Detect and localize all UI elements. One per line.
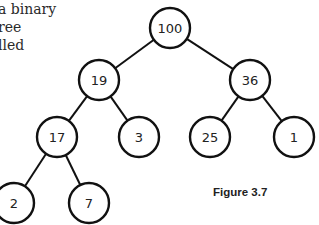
node-value: 100 — [158, 21, 183, 36]
tree-edge — [115, 40, 154, 68]
tree-edge — [262, 96, 282, 121]
tree-edge — [66, 155, 81, 185]
tree-node-7: 7 — [69, 183, 109, 223]
node-value: 36 — [242, 73, 259, 88]
tree-edge — [25, 154, 46, 186]
tree-node-17: 17 — [37, 117, 77, 157]
tree-node-36: 36 — [230, 60, 270, 100]
node-value: 19 — [91, 73, 108, 88]
tree-node-1: 1 — [274, 117, 314, 157]
tree-node-25: 25 — [190, 117, 230, 157]
tree-edge — [221, 96, 238, 120]
tree-node-2: 2 — [0, 183, 34, 223]
binary-tree-diagram: 100193617325127 — [0, 0, 319, 225]
tree-edge — [69, 96, 87, 121]
tree-node-3: 3 — [119, 117, 159, 157]
node-value: 1 — [290, 130, 298, 145]
tree-node-19: 19 — [79, 60, 119, 100]
tree-edge — [110, 96, 127, 120]
tree-edge — [187, 39, 233, 69]
node-value: 3 — [135, 130, 143, 145]
node-value: 7 — [85, 196, 93, 211]
node-value: 2 — [10, 196, 18, 211]
figure-caption: Figure 3.7 — [213, 186, 267, 198]
node-value: 25 — [202, 130, 219, 145]
tree-node-100: 100 — [150, 8, 190, 48]
node-value: 17 — [49, 130, 66, 145]
